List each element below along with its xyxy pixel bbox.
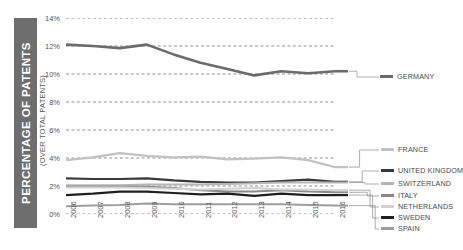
x-axis-tick-label: 2011 (204, 202, 213, 218)
series-end-swatch (335, 189, 348, 191)
y-axis-tick-label: 10% (34, 70, 60, 79)
y-axis-tick-label: 4% (34, 154, 60, 163)
legend-leader (349, 183, 379, 185)
chart-svg (66, 18, 335, 214)
x-axis-tick-label: 2006 (69, 201, 78, 218)
plot-area (66, 18, 335, 214)
legend-leader (349, 206, 379, 229)
legend-leader (349, 190, 379, 207)
series-line-germany (66, 45, 335, 76)
y-axis-tick-label: 0% (34, 210, 60, 219)
y-axis-tick-label: 2% (34, 182, 60, 191)
x-axis-tick-label: 2010 (177, 201, 186, 218)
legend-leader-lines (335, 0, 455, 250)
x-axis-tick-label: 2009 (150, 201, 159, 218)
series-end-swatch (335, 194, 348, 196)
series-end-swatch (335, 205, 348, 207)
series-line-sweden (66, 192, 335, 196)
y-axis-title: PERCENTAGE OF PATENTS (20, 42, 32, 204)
series-end-swatch (335, 182, 348, 184)
series-line-france (66, 153, 335, 167)
series-line-netherlands (66, 187, 335, 190)
series-line-switzerland (66, 183, 335, 186)
x-axis-tick-label: 2013 (257, 201, 266, 218)
y-axis-tick-label: 12% (34, 42, 60, 51)
x-axis-tick-label: 2014 (284, 201, 293, 218)
series-end-swatch (335, 191, 348, 193)
x-axis-tick-label: 2015 (311, 201, 320, 218)
x-axis-tick-label: 2008 (123, 201, 132, 218)
series-end-swatch (335, 70, 348, 73)
x-axis-tick-label: 2012 (230, 201, 239, 218)
y-axis-tick-label: 8% (34, 98, 60, 107)
legend-leader (349, 71, 379, 77)
series-end-swatch (335, 166, 348, 168)
x-axis-tick-label: 2007 (96, 201, 105, 218)
legend-leader (349, 150, 379, 167)
legend-leader (349, 195, 379, 218)
y-axis-tick-label: 14% (34, 14, 60, 23)
y-axis-subtitle: (OVER TOTAL PATENTS) (38, 75, 47, 166)
chart-legend: GERMANYFRANCEUNITED KINGDOMSWITZERLANDIT… (335, 0, 455, 250)
series-line-spain (66, 204, 335, 207)
legend-leader (349, 171, 379, 182)
y-axis-tick-label: 6% (34, 126, 60, 135)
